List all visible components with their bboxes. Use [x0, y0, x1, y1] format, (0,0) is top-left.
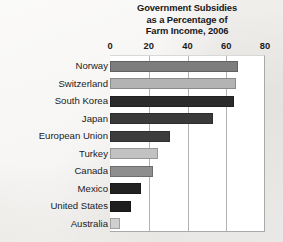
x-tick-label-40: 40 [182, 41, 192, 51]
bar-mexico [110, 183, 141, 194]
category-label-switzerland: Switzerland [0, 78, 108, 89]
chart-figure: Government Subsidies as a Percentage of … [0, 0, 283, 242]
bar-south-korea [110, 96, 234, 107]
bar-series [110, 56, 264, 231]
x-tick-label-20: 20 [144, 41, 154, 51]
x-tick-label-0: 0 [107, 41, 112, 51]
chart-title-line-2: as a Percentage of [98, 14, 276, 26]
bar-european-union [110, 131, 170, 142]
category-label-turkey: Turkey [0, 148, 108, 159]
category-label-australia: Australia [0, 218, 108, 229]
category-label-norway: Norway [0, 60, 108, 71]
chart-title-line-3: Farm Income, 2006 [98, 25, 276, 37]
category-label-south-korea: South Korea [0, 95, 108, 106]
x-tick-label-80: 80 [260, 41, 270, 51]
bar-canada [110, 166, 153, 177]
bar-norway [110, 61, 238, 72]
chart-title-line-1: Government Subsidies [98, 2, 276, 14]
y-axis-category-labels: NorwaySwitzerlandSouth KoreaJapanEuropea… [0, 55, 108, 232]
category-label-mexico: Mexico [0, 183, 108, 194]
category-label-european-union: European Union [0, 130, 108, 141]
bar-united-states [110, 201, 131, 212]
plot-area [110, 55, 265, 232]
category-label-canada: Canada [0, 165, 108, 176]
bar-switzerland [110, 78, 236, 89]
category-label-united-states: United States [0, 200, 108, 211]
bar-turkey [110, 148, 158, 159]
chart-title: Government Subsidies as a Percentage of … [98, 2, 276, 37]
x-tick-label-60: 60 [221, 41, 231, 51]
bar-australia [110, 218, 120, 229]
x-axis-tick-labels: 020406080 [0, 41, 283, 55]
category-label-japan: Japan [0, 113, 108, 124]
bar-japan [110, 113, 213, 124]
